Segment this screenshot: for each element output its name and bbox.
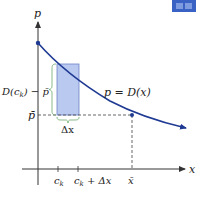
curve-start-dot — [36, 41, 40, 45]
tick-label-xbar: x̄ — [128, 175, 134, 186]
demand-curve-diagram: p x p = D(x) D(ck) − p̄ p̄ Δx ck ck + Δx… — [0, 0, 200, 199]
equilibrium-dot — [130, 113, 134, 117]
width-brace — [57, 117, 79, 123]
book-icon[interactable] — [172, 0, 196, 12]
y-axis-label: p — [34, 7, 41, 20]
x-axis-label: x — [189, 163, 196, 176]
tick-label-ck: ck — [54, 175, 64, 188]
pbar-label: p̄ — [28, 109, 35, 122]
curve-label: p = D(x) — [104, 86, 151, 99]
width-label: Δx — [61, 124, 74, 135]
tick-label-ck-plus-dx: ck + Δx — [74, 175, 112, 188]
height-brace — [49, 64, 56, 115]
height-label: D(ck) − p̄ — [1, 86, 49, 99]
